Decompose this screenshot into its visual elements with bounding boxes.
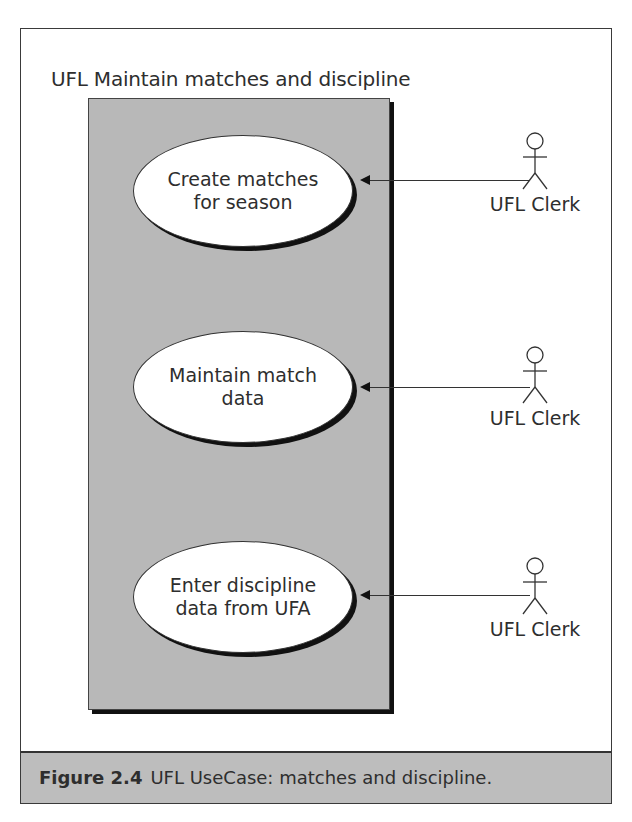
arrowhead-icon [360,590,370,600]
arrowhead-icon [360,175,370,185]
caption-text: Figure 2.4UFL UseCase: matches and disci… [39,767,492,788]
use-case-line: Maintain match [169,364,317,387]
use-case-line: data [169,387,317,410]
use-case-line: data from UFA [170,597,316,620]
diagram-title: UFL Maintain matches and discipline [51,67,410,91]
figure-caption: Figure 2.4UFL UseCase: matches and disci… [21,751,611,803]
actor-ufl-clerk: UFL Clerk [480,131,590,251]
actor-ufl-clerk: UFL Clerk [480,556,590,676]
actor-ufl-clerk: UFL Clerk [480,345,590,465]
figure-frame: UFL Maintain matches and discipline Crea… [20,28,612,804]
arrowhead-icon [360,382,370,392]
actor-label: UFL Clerk [480,618,590,640]
stick-figure-icon [515,556,555,618]
figure-number: Figure 2.4 [39,767,142,788]
use-case-line: Create matches [168,168,319,191]
use-case-maintain-match-data: Maintain match data [133,331,353,443]
stick-figure-icon [515,131,555,193]
use-case-enter-discipline-data: Enter discipline data from UFA [133,541,353,653]
use-case-line: Enter discipline [170,574,316,597]
actor-label: UFL Clerk [480,407,590,429]
use-case-create-matches: Create matches for season [133,135,353,247]
caption-description: UFL UseCase: matches and discipline. [150,767,492,788]
actor-label: UFL Clerk [480,193,590,215]
use-case-line: for season [168,191,319,214]
stick-figure-icon [515,345,555,407]
